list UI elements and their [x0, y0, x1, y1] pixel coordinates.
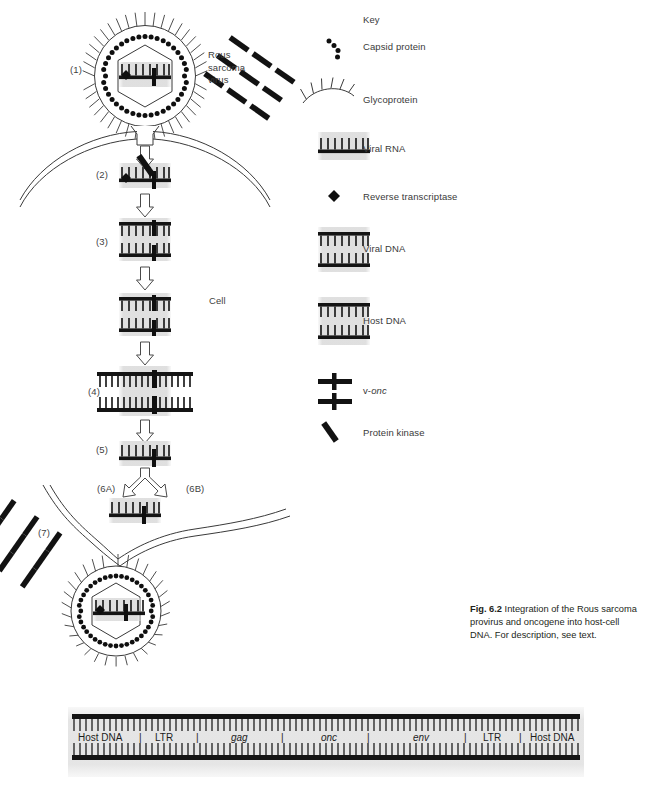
key-label-glycoprotein: Glycoprotein [363, 94, 418, 107]
virion-genome-top [119, 62, 171, 87]
key-label-protein-kinase: Protein kinase [363, 427, 425, 440]
virion-genome-progeny [93, 598, 145, 621]
key-icon-capsid-protein [327, 39, 341, 60]
step-label-4: (4) [88, 386, 100, 399]
key-icon-v-onc [318, 373, 352, 410]
key-icon-reverse-transcriptase [328, 190, 340, 202]
key-label-v-onc-gene: onc [371, 385, 387, 396]
key-label-viral-dna: Viral DNA [363, 243, 405, 256]
gene-separator-4: | [367, 732, 370, 743]
gene-separator-2: | [196, 732, 199, 743]
gene-label-host-dna-right: Host DNA [530, 732, 574, 743]
step-label-5: (5) [96, 444, 108, 457]
arrow-fork-5-to-6 [123, 468, 167, 497]
cell-label: Cell [209, 295, 226, 308]
figure-number: Fig. 6.2 [470, 604, 502, 614]
figure-root: (1) (2) (3) (4) (5) (6A) (6B) (7) Rous s… [0, 0, 652, 786]
virus-label-line-3: virus [208, 74, 245, 87]
step-label-6b: (6B) [186, 483, 204, 496]
gene-label-ltr-left: LTR [155, 732, 173, 743]
v-onc-marker-icon [152, 449, 156, 467]
step-label-1: (1) [70, 64, 82, 77]
v-onc-marker-icon [152, 370, 157, 388]
virus-label-line-1: Rous [208, 49, 245, 62]
gene-separator-3: | [281, 732, 284, 743]
step-4-integrated-provirus [97, 366, 193, 416]
v-onc-marker-icon [152, 396, 157, 414]
step-5-progeny-rna [119, 441, 171, 467]
v-onc-marker-icon [142, 506, 146, 524]
gene-label-host-dna-left: Host DNA [78, 732, 122, 743]
figure-caption: Fig. 6.2 Integration of the Rous sarcoma… [470, 603, 642, 643]
v-onc-marker-icon [152, 320, 156, 336]
key-label-viral-rna: Viral RNA [363, 143, 405, 156]
arrow-4-to-5 [137, 420, 154, 443]
v-onc-marker-icon [152, 220, 156, 236]
v-onc-marker-icon [152, 245, 156, 261]
virus-particle-top [83, 12, 208, 140]
arrow-2-to-3 [137, 194, 154, 217]
step-label-3: (3) [96, 236, 108, 249]
gene-separator-1: | [139, 732, 142, 743]
key-label-v-onc-prefix: v- [363, 385, 371, 396]
virus-label-line-2: sarcoma [208, 62, 245, 75]
v-onc-marker-icon [152, 68, 156, 86]
virus-particle-progeny [62, 554, 170, 667]
virus-label: Rous sarcoma virus [208, 49, 245, 87]
step-label-6a: (6A) [97, 483, 115, 496]
step-label-2: (2) [96, 169, 108, 182]
arrow-3-to-4 [137, 342, 154, 365]
gene-label-env: env [413, 732, 429, 743]
key-title: Key [363, 14, 380, 27]
gene-label-onc: onc [321, 732, 337, 743]
gene-separator-5: | [464, 732, 467, 743]
step-6a-viral-rna [109, 498, 161, 524]
key-label-reverse-transcriptase: Reverse transcriptase [363, 191, 458, 204]
key-label-capsid-protein: Capsid protein [363, 41, 426, 54]
key-icon-glycoprotein [301, 78, 355, 104]
v-onc-marker-icon [124, 604, 128, 621]
v-onc-marker-icon [152, 295, 156, 311]
step-3-viral-dna [119, 218, 171, 261]
key-label-host-dna: Host DNA [363, 315, 406, 328]
step-label-7: (7) [38, 527, 50, 540]
step-3b-viral-dna [119, 293, 171, 336]
gene-separator-6: | [519, 732, 522, 743]
arrow-3-to-3b [137, 267, 154, 290]
gene-label-gag: gag [231, 732, 248, 743]
key-label-v-onc: v-onc [363, 385, 387, 398]
gene-label-ltr-right: LTR [483, 732, 501, 743]
